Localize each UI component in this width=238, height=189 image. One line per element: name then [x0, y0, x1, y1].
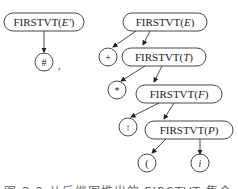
label-firstvt-p: FIRSTVT(P) — [160, 124, 219, 137]
label-firstvt-e-prime: FIRSTVT(E') — [13, 16, 74, 29]
label-firstvt-e: FIRSTVT(E) — [136, 16, 195, 29]
firstvt-diagram: FIRSTVT(E') # , FIRSTVT(E) FIRSTVT(T) FI… — [0, 0, 238, 189]
label-hash: # — [42, 57, 47, 68]
label-uparrow: ↑ — [126, 122, 131, 133]
separator-comma: , — [58, 60, 61, 71]
label-i: i — [199, 158, 202, 169]
label-plus: + — [105, 52, 111, 63]
figure-caption: 图 3.9 从后继图推出的 FIRSTVT 集合 — [4, 182, 238, 189]
label-lparen: ( — [145, 158, 149, 170]
label-firstvt-f: FIRSTVT(F) — [150, 88, 209, 101]
label-firstvt-t: FIRSTVT(T) — [135, 51, 193, 64]
label-star: * — [115, 85, 120, 96]
